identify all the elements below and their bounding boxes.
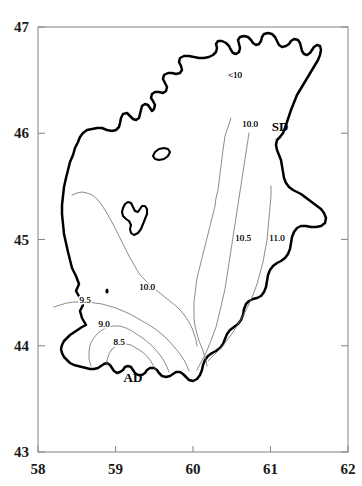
- y-axis-label-46: 46: [14, 125, 30, 141]
- x-axis-label-60: 60: [186, 461, 201, 477]
- contour-labels: <10<1010.010.010.510.511.011.010.010.09.…: [79, 70, 285, 347]
- y-axis-label-45: 45: [14, 232, 29, 248]
- station-label-SD: SD: [272, 119, 289, 134]
- contour-label-100: 10.0: [242, 119, 258, 129]
- plot-frame: [38, 27, 348, 452]
- x-axis-label-59: 59: [108, 461, 123, 477]
- contour-label-10: <10: [228, 70, 243, 80]
- y-axis-ticks: [38, 27, 348, 452]
- contour-label-100: 10.0: [139, 282, 155, 292]
- contour-line-11: [208, 186, 271, 361]
- y-axis-label-47: 47: [14, 19, 30, 35]
- figure-root: <10<1010.010.010.510.511.011.010.010.09.…: [0, 0, 362, 486]
- contour-label-90: 9.0: [98, 319, 110, 329]
- contour-lines: [54, 118, 271, 372]
- x-axis-label-58: 58: [31, 461, 46, 477]
- y-axis-tick-labels: 4746454443: [14, 19, 30, 460]
- interior-lake-2: [122, 202, 147, 235]
- x-axis-ticks: [38, 446, 348, 452]
- y-axis-label-43: 43: [14, 444, 29, 460]
- x-axis-tick-labels: 5859606162: [31, 461, 356, 477]
- contour-line-10: [194, 118, 231, 366]
- contour-map: <10<1010.010.010.510.511.011.010.010.09.…: [0, 0, 362, 486]
- contour-label-105: 10.5: [235, 233, 251, 243]
- x-axis-label-62: 62: [341, 461, 356, 477]
- y-axis-label-44: 44: [14, 338, 30, 354]
- x-axis-label-61: 61: [263, 461, 278, 477]
- contour-label-95: 9.5: [79, 295, 91, 305]
- station-label-AD: AD: [124, 370, 143, 385]
- interior-lake-1: [153, 148, 170, 160]
- interior-lakes: [122, 148, 170, 235]
- station-dot: [105, 288, 108, 293]
- contour-label-85: 8.5: [113, 337, 125, 347]
- contour-line-10-5: [197, 133, 249, 370]
- contour-label-110: 11.0: [269, 233, 285, 243]
- contour-line-10: [72, 192, 197, 346]
